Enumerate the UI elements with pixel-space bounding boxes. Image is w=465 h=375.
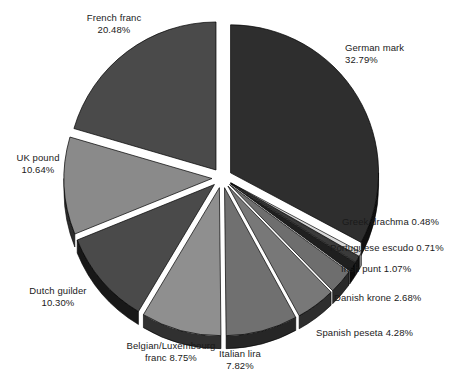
pie-chart-figure: German mark32.79%Greek drachma 0.48%Port… — [0, 0, 465, 375]
pie-label-greek-drachma: Greek drachma 0.48% — [342, 216, 439, 228]
pie-label-belgian-luxembourg-franc: Belgian/Luxembourgfranc 8.75% — [127, 340, 216, 364]
pie-label-portuguese-escudo: Portuguese escudo 0.71% — [330, 242, 444, 254]
pie-label-italian-lira: Italian lira7.82% — [219, 348, 261, 372]
pie-label-value: 10.30% — [29, 297, 86, 309]
pie-label-german-mark: German mark32.79% — [345, 42, 404, 66]
pie-label-value: franc 8.75% — [127, 352, 216, 364]
pie-label-name: German mark — [345, 42, 404, 54]
pie-label-name: Dutch guilder — [29, 285, 86, 297]
pie-label-value: 32.79% — [345, 54, 404, 66]
pie-label-danish-krone: Danish krone 2.68% — [334, 292, 421, 304]
pie-slices-layer — [64, 22, 379, 336]
pie-label-value: 0.71% — [414, 242, 444, 253]
pie-label-value: 0.48% — [409, 216, 439, 227]
pie-label-french-franc: French franc20.48% — [87, 12, 142, 36]
pie-label-name: Portuguese escudo — [330, 242, 414, 253]
pie-label-name: Greek drachma — [342, 216, 409, 227]
pie-label-spanish-peseta: Spanish peseta 4.28% — [316, 327, 413, 339]
pie-label-name: UK pound — [16, 152, 59, 164]
pie-label-irish-punt: Irish punt 1.07% — [341, 263, 411, 275]
pie-label-value: 7.82% — [219, 360, 261, 372]
pie-label-value: 4.28% — [383, 327, 413, 338]
pie-label-name: Spanish peseta — [316, 327, 383, 338]
pie-label-name: Danish krone — [334, 292, 391, 303]
pie-label-value: 20.48% — [87, 24, 142, 36]
pie-label-dutch-guilder: Dutch guilder10.30% — [29, 285, 86, 309]
pie-label-name: Belgian/Luxembourg — [127, 340, 216, 352]
pie-label-value: 1.07% — [381, 263, 411, 274]
pie-label-name: French franc — [87, 12, 142, 24]
pie-label-uk-pound: UK pound10.64% — [16, 152, 59, 176]
pie-label-value: 2.68% — [391, 292, 421, 303]
pie-label-value: 10.64% — [16, 164, 59, 176]
pie-label-name: Irish punt — [341, 263, 381, 274]
pie-label-name: Italian lira — [219, 348, 261, 360]
